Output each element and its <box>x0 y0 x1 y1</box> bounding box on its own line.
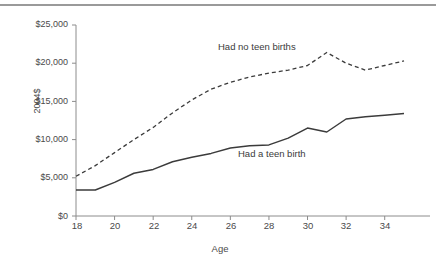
axis-lines <box>76 25 430 216</box>
plot-canvas <box>0 0 436 264</box>
annotation-had-no-teen-births: Had no teen births <box>218 41 296 52</box>
chart-figure: 2004$ Age $0 $5,000 $10,000 $15,000 $20,… <box>0 0 436 264</box>
y-tick-marks <box>72 25 76 216</box>
x-tick-marks <box>76 216 385 220</box>
annotation-had-a-teen-birth: Had a teen birth <box>238 148 306 159</box>
